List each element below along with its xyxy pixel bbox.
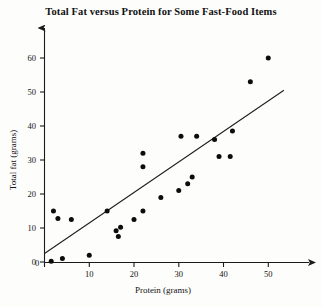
scatter-plot-figure: Total Fat versus Protein for Some Fast-F… (0, 0, 322, 307)
y-tick-label-60: 60 (28, 53, 37, 63)
regression-line (45, 90, 284, 253)
data-points-group (49, 56, 271, 264)
data-point (114, 228, 119, 233)
x-axis-title: Protein (grams) (135, 285, 191, 295)
data-point (132, 217, 137, 222)
data-point (87, 253, 92, 258)
x-tick-label-40: 40 (219, 269, 228, 279)
y-tick-label-10: 10 (28, 223, 37, 233)
data-point (217, 154, 222, 159)
data-point (228, 154, 233, 159)
y-tick-label-30: 30 (28, 155, 37, 165)
data-point (69, 217, 74, 222)
data-point (140, 151, 145, 156)
data-point (190, 175, 195, 180)
y-axis-ticks (40, 58, 45, 262)
data-point (248, 79, 253, 84)
data-point (178, 134, 183, 139)
plot-area: 0 10 20 30 40 50 60 Total fat (grams) 0 … (0, 0, 322, 307)
data-point (194, 134, 199, 139)
data-point (176, 188, 181, 193)
data-point (158, 195, 163, 200)
x-tick-label-20: 20 (130, 269, 139, 279)
data-point (185, 181, 190, 186)
data-point (51, 209, 56, 214)
y-tick-label-40: 40 (28, 121, 37, 131)
data-point (266, 56, 271, 61)
data-point (140, 164, 145, 169)
data-point (140, 209, 145, 214)
data-point (212, 137, 217, 142)
data-point (118, 225, 123, 230)
data-point (105, 209, 110, 214)
y-tick-label-20: 20 (28, 189, 37, 199)
x-tick-label-30: 30 (175, 269, 184, 279)
x-axis: 0 10 20 30 40 50 Protein (grams) (35, 258, 309, 295)
x-tick-label-10: 10 (85, 269, 94, 279)
y-axis-title: Total fat (grams) (8, 130, 18, 190)
data-point (49, 259, 54, 264)
y-axis: 0 10 20 30 40 50 60 Total fat (grams) (8, 28, 45, 267)
data-point (55, 216, 60, 221)
data-point (116, 234, 121, 239)
y-tick-label-50: 50 (28, 87, 37, 97)
x-tick-label-0: 0 (35, 258, 39, 268)
data-point (230, 129, 235, 134)
x-tick-label-50: 50 (264, 269, 273, 279)
x-axis-ticks (45, 263, 269, 268)
data-point (60, 256, 65, 261)
